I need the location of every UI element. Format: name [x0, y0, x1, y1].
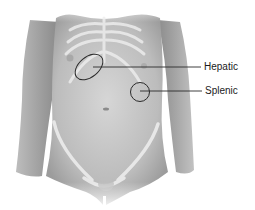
right-nipple: [141, 63, 147, 69]
navel: [103, 108, 109, 111]
splenic-label: Splenic: [205, 85, 238, 97]
left-nipple: [67, 55, 74, 62]
torso-diagram: [0, 0, 255, 210]
hepatic-label: Hepatic: [204, 61, 238, 73]
